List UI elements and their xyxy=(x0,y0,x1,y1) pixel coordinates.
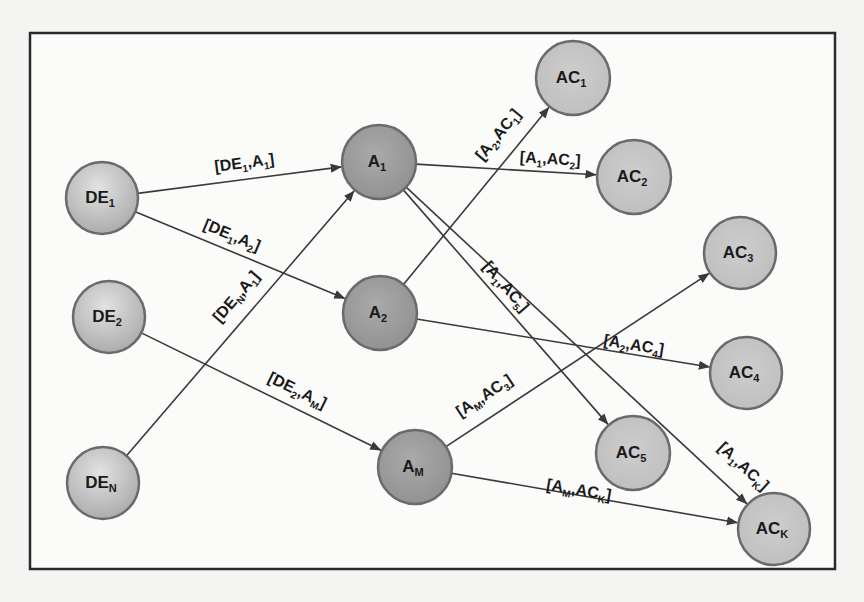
node-de2: DE2 xyxy=(73,281,145,353)
node-ac1: AC1 xyxy=(536,41,610,115)
node-ac2: AC2 xyxy=(597,140,671,214)
diagram-canvas: [DE1,A1][DE1,A2][DEN,A1][DE2,AM][A2,AC1]… xyxy=(0,0,864,602)
node-a2: A2 xyxy=(343,276,417,350)
node-a1: A1 xyxy=(342,125,416,199)
node-am: AM xyxy=(378,430,452,504)
node-de1: DE1 xyxy=(66,162,138,234)
node-ack: ACK xyxy=(738,493,810,565)
node-den: DEN xyxy=(67,447,139,519)
node-ac4: AC4 xyxy=(710,337,782,409)
node-ac3: AC3 xyxy=(704,217,776,289)
node-ac5: AC5 xyxy=(596,416,670,490)
